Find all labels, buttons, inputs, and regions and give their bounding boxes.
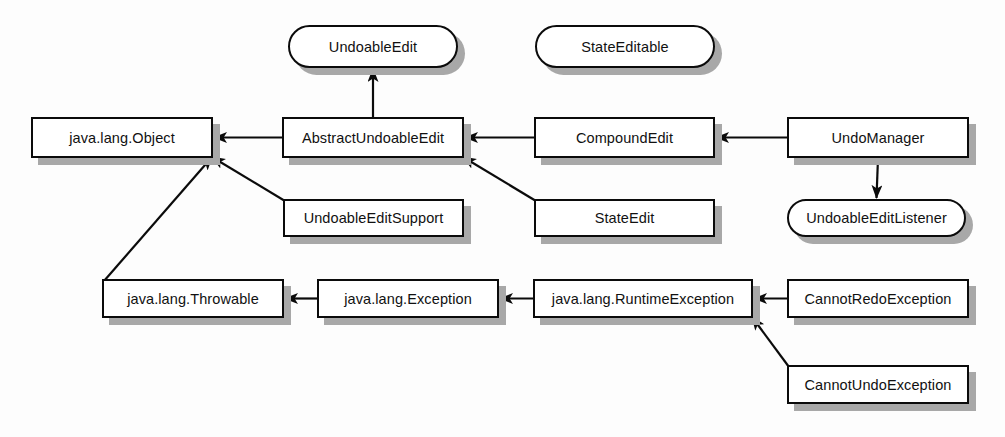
node-runtimeException[interactable]: java.lang.RuntimeException (533, 279, 753, 318)
node-exception[interactable]: java.lang.Exception (317, 279, 499, 318)
node-label: StateEditable (581, 39, 669, 55)
node-label: AbstractUndoableEdit (302, 130, 444, 146)
node-label: java.lang.Throwable (127, 291, 259, 307)
node-compoundEdit[interactable]: CompoundEdit (534, 117, 715, 158)
node-undoManager[interactable]: UndoManager (787, 117, 969, 158)
node-label: CompoundEdit (576, 130, 673, 146)
node-label: UndoableEditSupport (304, 210, 444, 226)
node-object[interactable]: java.lang.Object (31, 117, 213, 158)
node-undoableEdit[interactable]: UndoableEdit (288, 25, 458, 68)
node-stateEdit[interactable]: StateEdit (534, 199, 715, 237)
class-diagram-canvas: UndoableEditStateEditablejava.lang.Objec… (0, 0, 1005, 437)
node-undoableEditListener[interactable]: UndoableEditListener (787, 199, 966, 237)
node-label: UndoManager (832, 130, 925, 146)
node-cannotUndoException[interactable]: CannotUndoException (787, 365, 969, 404)
node-label: java.lang.RuntimeException (552, 291, 734, 307)
node-label: CannotRedoException (805, 291, 952, 307)
node-label: UndoableEdit (329, 39, 417, 55)
edge-throwable-to-object (104, 157, 212, 281)
node-label: UndoableEditListener (806, 210, 947, 226)
node-stateEditable[interactable]: StateEditable (535, 25, 715, 68)
edge-undoableEditSupport-to-object (212, 157, 285, 201)
node-label: java.lang.Exception (344, 291, 472, 307)
node-label: CannotUndoException (805, 377, 952, 393)
node-throwable[interactable]: java.lang.Throwable (102, 279, 284, 318)
node-label: java.lang.Object (69, 130, 175, 146)
node-abstractUndoableEdit[interactable]: AbstractUndoableEdit (282, 117, 464, 158)
node-label: StateEdit (595, 210, 655, 226)
node-undoableEditSupport[interactable]: UndoableEditSupport (283, 199, 464, 237)
node-cannotRedoException[interactable]: CannotRedoException (787, 279, 969, 318)
edge-stateEdit-to-abstractUndoableEdit (463, 157, 536, 201)
